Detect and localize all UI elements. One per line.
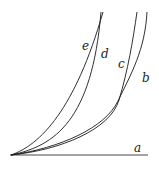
label-d: d [101,47,109,61]
label-a: a [134,141,141,155]
label-c: c [118,57,125,71]
label-b: b [142,71,150,85]
curve-c [11,12,137,155]
curve-b [11,12,147,155]
label-e: e [82,39,89,53]
curves-diagram: a b c d e [0,0,159,169]
